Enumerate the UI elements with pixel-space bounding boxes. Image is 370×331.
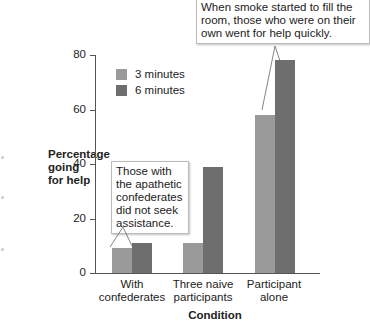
annotation-callout: Those with the apathetic confederates di…: [111, 161, 189, 234]
annotation-callout: When smoke started to fill the room, tho…: [196, 0, 370, 44]
edge-mark: [1, 196, 4, 199]
legend-swatch-6-minutes: [116, 85, 127, 96]
y-tick-label: 40: [62, 157, 86, 169]
y-axis-label-line: for help: [48, 174, 110, 187]
y-tick-label: 0: [62, 266, 86, 278]
legend-swatch-3-minutes: [116, 69, 127, 80]
y-tick: [90, 273, 95, 274]
legend-item: 6 minutes: [116, 82, 185, 98]
x-axis-label: Condition: [170, 309, 260, 321]
y-tick: [90, 219, 95, 220]
annotation-pointer: [250, 44, 290, 114]
bar-3-minutes: [112, 248, 132, 273]
annotation-line: did not seek: [116, 204, 184, 217]
bar-6-minutes: [203, 167, 223, 273]
annotation-line: When smoke started to fill the: [201, 1, 365, 14]
category-label-line: participants: [163, 291, 243, 304]
bar-3-minutes: [255, 115, 275, 273]
category-label-line: With: [92, 278, 172, 291]
category-label-line: confederates: [92, 291, 172, 304]
y-tick-label: 60: [62, 103, 86, 115]
y-axis-line: [95, 55, 96, 274]
category-label: Participant alone: [234, 278, 314, 304]
annotation-pointer: [110, 225, 150, 250]
y-tick-label: 80: [62, 48, 86, 60]
edge-mark: [1, 156, 4, 159]
y-tick: [90, 55, 95, 56]
legend-item: 3 minutes: [116, 66, 185, 82]
y-tick: [90, 164, 95, 165]
annotation-line: room, those who were on their: [201, 14, 365, 27]
annotation-line: own went for help quickly.: [201, 27, 365, 40]
annotation-line: confederates: [116, 191, 184, 204]
edge-mark: [1, 248, 4, 251]
y-tick: [90, 110, 95, 111]
legend: 3 minutes 6 minutes: [116, 66, 185, 98]
legend-label: 3 minutes: [135, 68, 185, 80]
legend-label: 6 minutes: [135, 84, 185, 96]
category-label: With confederates: [92, 278, 172, 304]
annotation-line: Those with: [116, 165, 184, 178]
x-axis-line: [95, 273, 320, 274]
bar-3-minutes: [183, 243, 203, 273]
category-label-line: Participant: [234, 278, 314, 291]
category-label: Three naive participants: [163, 278, 243, 304]
y-tick-label: 20: [62, 212, 86, 224]
annotation-line: the apathetic: [116, 178, 184, 191]
category-label-line: Three naive: [163, 278, 243, 291]
category-label-line: alone: [234, 291, 314, 304]
